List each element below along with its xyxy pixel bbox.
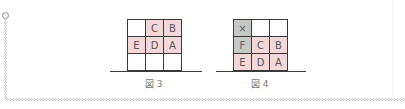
grid-cell: B — [270, 37, 288, 54]
figure-3-ground-line — [110, 71, 202, 72]
grid-cell — [270, 20, 288, 37]
figure-4-ground-line — [216, 71, 306, 72]
grid-cell: D — [252, 54, 270, 71]
grid-cell: C — [252, 37, 270, 54]
figure-4-caption: 図 4 — [251, 77, 269, 90]
grid-cell: E — [128, 37, 146, 54]
grid-cell — [252, 20, 270, 37]
figure-3-caption: 図 3 — [145, 77, 163, 90]
grid-cell — [128, 20, 146, 37]
bottom-chain-border — [6, 98, 405, 101]
grid-cell — [164, 54, 182, 71]
grid-cell — [128, 54, 146, 71]
grid-cell: A — [270, 54, 288, 71]
grid-cell: A — [164, 37, 182, 54]
grid-cell: E — [234, 54, 252, 71]
page-fold-line — [392, 0, 393, 96]
figure-4-grid: × F C B E D A — [233, 19, 288, 71]
grid-cell — [146, 54, 164, 71]
figure-3-grid: C B E D A — [127, 19, 182, 71]
grid-cell: F — [234, 37, 252, 54]
grid-cell: B — [164, 20, 182, 37]
left-chain-border — [4, 18, 7, 100]
grid-cell: × — [234, 20, 252, 37]
grid-cell: C — [146, 20, 164, 37]
grid-cell: D — [146, 37, 164, 54]
